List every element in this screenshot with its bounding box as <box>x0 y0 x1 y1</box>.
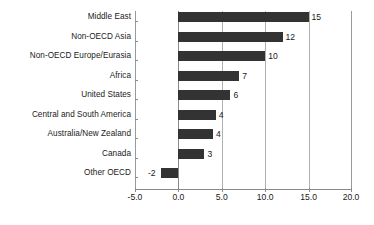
plot-area: 15 12 10 7 6 4 4 3 -2 <box>135 11 352 189</box>
bar <box>178 32 282 42</box>
bar <box>178 12 308 22</box>
bar-value-label: -2 <box>148 168 156 178</box>
bar-value-label: 4 <box>219 110 224 120</box>
category-label: United States <box>0 90 131 99</box>
category-label: Australia/New Zealand <box>0 129 131 138</box>
bar-value-label: 4 <box>216 129 221 139</box>
axis-tick <box>135 138 138 139</box>
axis-frame-right <box>351 11 352 189</box>
bar <box>161 168 178 178</box>
x-axis-tick-label: 0.0 <box>172 192 184 203</box>
axis-tick <box>135 158 138 159</box>
axis-frame-left <box>135 11 136 189</box>
bar-value-label: 3 <box>207 149 212 159</box>
bar-value-label: 6 <box>234 90 239 100</box>
gridline-15 <box>309 11 310 189</box>
category-label: Africa <box>0 71 131 80</box>
axis-tick <box>135 21 138 22</box>
category-label: Middle East <box>0 12 131 21</box>
x-axis-tick-label: 5.0 <box>216 192 228 203</box>
axis-line-bottom <box>135 189 352 190</box>
axis-tick <box>135 99 138 100</box>
axis-tick <box>135 41 138 42</box>
axis-tick <box>135 119 138 120</box>
x-axis-tick-label: -5.0 <box>128 192 143 203</box>
x-axis-tick-label: 15.0 <box>300 192 317 203</box>
bar-chart: Middle East Non-OECD Asia Non-OECD Europ… <box>0 0 374 225</box>
x-axis-tick-labels: -5.0 0.0 5.0 10.0 15.0 20.0 <box>135 192 352 206</box>
x-axis-tick-label: 10.0 <box>257 192 274 203</box>
category-label: Non-OECD Europe/Eurasia <box>0 51 131 60</box>
bar-value-label: 12 <box>286 32 296 42</box>
category-label: Central and South America <box>0 110 131 119</box>
bar-value-label: 10 <box>268 51 278 61</box>
axis-tick <box>135 60 138 61</box>
bar-value-label: 7 <box>242 71 247 81</box>
bar <box>178 110 215 120</box>
axis-tick <box>135 80 138 81</box>
bar-value-label: 15 <box>312 12 322 22</box>
bar <box>178 90 230 100</box>
category-label: Canada <box>0 149 131 158</box>
category-axis-labels: Middle East Non-OECD Asia Non-OECD Europ… <box>0 0 131 189</box>
bar <box>178 71 239 81</box>
category-label: Non-OECD Asia <box>0 32 131 41</box>
x-axis-tick-label: 20.0 <box>343 192 360 203</box>
category-label: Other OECD <box>0 168 131 177</box>
bar <box>178 149 204 159</box>
axis-tick <box>135 177 138 178</box>
bar <box>178 51 265 61</box>
bar <box>178 129 213 139</box>
